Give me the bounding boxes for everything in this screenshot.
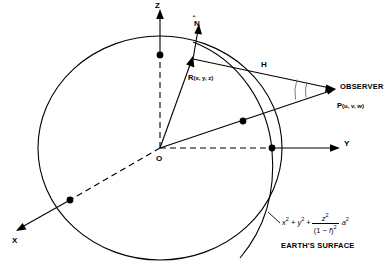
y-axis-surface-dot xyxy=(269,145,276,152)
normal-vector-letter: N xyxy=(194,19,200,28)
observer-title-label: OBSERVER xyxy=(340,83,384,91)
equation-denominator-exp: 2 xyxy=(333,224,336,230)
equation-denominator-open: (1 − xyxy=(314,225,329,234)
equation-exp-a: 2 xyxy=(346,216,349,222)
observer-point-coords: (u, v, w) xyxy=(342,103,364,109)
y-axis-label: Y xyxy=(344,140,349,148)
equation-leader-line xyxy=(268,212,280,223)
equation-numerator-group: z2 xyxy=(312,212,339,223)
y-axis-arrowhead xyxy=(330,144,340,152)
angle-arc-inner xyxy=(305,82,307,98)
equation-exp-y: 2 xyxy=(301,216,304,222)
observer-point-label-group: P(u, v, w) xyxy=(337,95,364,111)
range-label-H: H xyxy=(261,61,267,69)
surface-equation: x2 + y2 +z2(1 − f)2 a2 xyxy=(282,212,349,234)
x-axis-arrowhead xyxy=(16,223,26,231)
z-axis-label: Z xyxy=(155,2,160,10)
radius-vector-OR xyxy=(160,62,191,148)
origin-label: O xyxy=(156,155,162,163)
equation-numerator-exp: 2 xyxy=(325,212,328,218)
x-axis-dashed xyxy=(70,148,160,200)
normal-vector-N xyxy=(193,30,198,59)
earth-geometry-diagram: Z Y X ̂ N H R(x, y, z) O OBSERVER P(u, v… xyxy=(0,0,386,265)
x-axis-surface-dot xyxy=(67,197,74,204)
surface-point-coords: (x, y, z) xyxy=(193,75,213,81)
equation-exp-x: 2 xyxy=(286,216,289,222)
earth-surface-caption: EARTH'S SURFACE xyxy=(281,242,355,250)
z-axis-arrowhead xyxy=(156,9,164,19)
surface-point-label-group: R(x, y, z) xyxy=(188,67,213,83)
equation-denominator-group: (1 − f)2 xyxy=(312,223,339,235)
x-axis-solid xyxy=(22,200,70,227)
observer-vector-surface-dot xyxy=(240,118,247,125)
z-axis-surface-dot xyxy=(157,52,164,59)
equation-fraction: z2(1 − f)2 xyxy=(312,212,339,234)
normal-vector-label: ̂ N xyxy=(194,20,200,28)
angle-arc-outer xyxy=(295,80,297,100)
x-axis-label: X xyxy=(12,237,17,245)
